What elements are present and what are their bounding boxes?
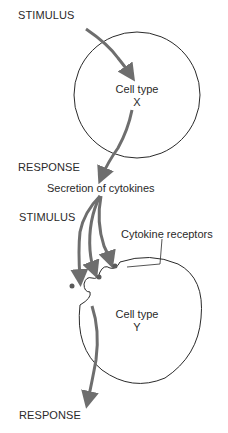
stimulus-label-top: STIMULUS — [18, 9, 74, 21]
cytokine-dot — [113, 264, 118, 269]
cell-x-label: Cell type — [110, 83, 164, 95]
response-arrow-x — [102, 110, 132, 176]
cytokine-arrow-3 — [99, 196, 110, 260]
cell-x-membrane — [74, 32, 200, 158]
receptor-pointer — [127, 239, 162, 267]
response-label-top: RESPONSE — [18, 161, 80, 173]
cell-y-id: Y — [110, 321, 164, 333]
cytokine-dot — [97, 275, 102, 280]
cytokine-dot — [70, 284, 75, 289]
cytokine-receptor-wave — [80, 262, 120, 305]
stimulus-arrow-x — [86, 29, 130, 74]
stimulus-label-bottom: STIMULUS — [19, 211, 75, 223]
response-arrow-y — [88, 306, 97, 400]
cell-y-label: Cell type — [110, 308, 164, 320]
response-label-bottom: RESPONSE — [19, 409, 81, 421]
secretion-label: Secretion of cytokines — [47, 182, 155, 194]
cell-x-id: X — [110, 96, 164, 108]
receptors-label: Cytokine receptors — [121, 228, 213, 240]
